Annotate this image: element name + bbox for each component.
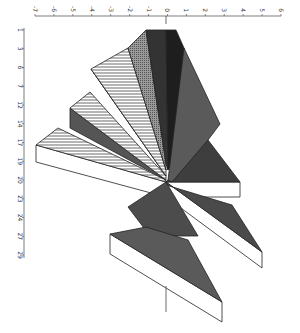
category-tick-label: 24 xyxy=(17,214,24,222)
category-tick-label: 20 xyxy=(17,176,24,184)
value-tick-label: -4 xyxy=(89,6,96,12)
category-tick-label: 6 xyxy=(17,66,24,70)
value-tick-label: 6 xyxy=(278,8,285,12)
value-tick-label: 5 xyxy=(259,8,266,12)
value-tick-label: -3 xyxy=(108,6,115,12)
value-tick-label: -7 xyxy=(32,6,39,12)
category-tick-label: 3 xyxy=(17,47,24,51)
value-axis xyxy=(35,16,281,24)
category-tick-label: 7 xyxy=(17,84,24,88)
fan-chart: -7-6-5-4-3-2-10123456 136712141719202324… xyxy=(0,0,300,333)
category-tick-label: 12 xyxy=(17,101,24,109)
category-tick-label: 23 xyxy=(17,195,24,203)
value-tick-label: -6 xyxy=(51,6,58,12)
fan-shapes xyxy=(36,30,262,322)
value-tick-label: -1 xyxy=(146,6,153,12)
value-tick-label: 1 xyxy=(183,8,190,12)
category-tick-label: 27 xyxy=(17,232,24,240)
category-tick-label: 1 xyxy=(17,28,24,32)
category-tick-label: 14 xyxy=(17,120,24,128)
value-axis-ticks: -7-6-5-4-3-2-10123456 xyxy=(32,6,285,16)
value-tick-label: -5 xyxy=(70,6,77,12)
category-axis-ticks: 1367121417192023242729 xyxy=(17,28,24,259)
value-tick-label: -2 xyxy=(127,6,134,12)
category-tick-label: 19 xyxy=(17,157,24,165)
value-tick-label: 0 xyxy=(164,8,171,12)
category-tick-label: 17 xyxy=(17,139,24,147)
value-tick-label: 4 xyxy=(240,8,247,12)
value-tick-label: 3 xyxy=(221,8,228,12)
category-tick-label: 29 xyxy=(17,251,24,259)
value-tick-label: 2 xyxy=(202,8,209,12)
